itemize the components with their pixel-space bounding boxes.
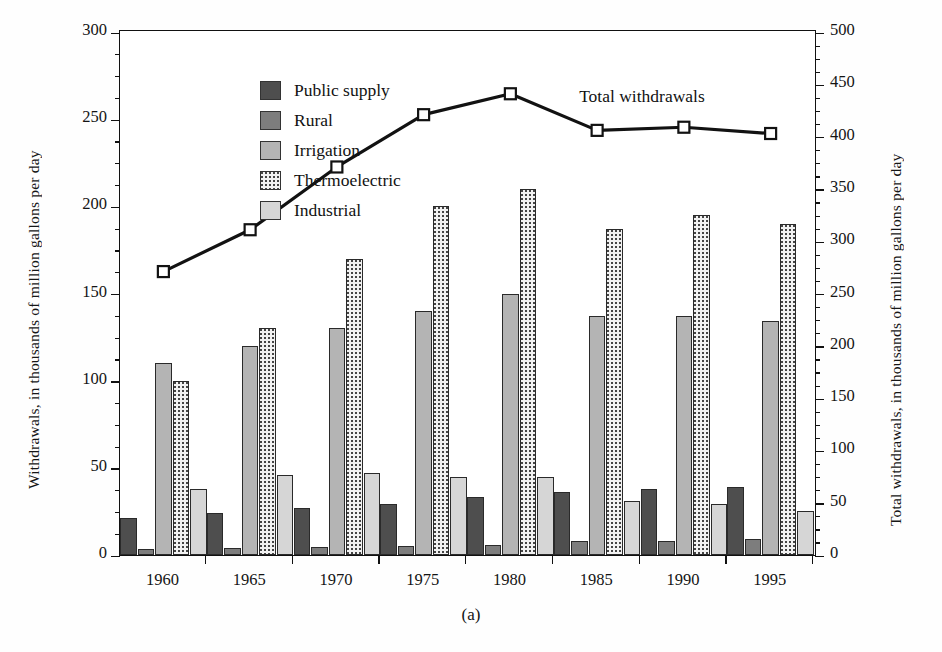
x-tick-label-1985: 1985 — [561, 570, 631, 590]
y-tick-major-right — [815, 85, 824, 86]
y-tick-minor-left — [115, 338, 120, 339]
legend-swatch-icon-public-supply — [260, 81, 281, 100]
line-series-label: Total withdrawals — [579, 86, 705, 107]
legend-item-public-supply[interactable]: Public supply — [260, 75, 401, 105]
y-tick-label-left-0: 0 — [63, 543, 107, 563]
legend-label: Irrigation — [294, 140, 360, 161]
y-tick-minor-right — [815, 320, 820, 321]
y-tick-major-right — [815, 294, 824, 295]
y-tick-label-left-250: 250 — [63, 107, 107, 127]
x-tick-label-1995: 1995 — [735, 570, 805, 590]
y-tick-minor-right — [815, 438, 820, 439]
y-tick-minor-right — [815, 386, 820, 387]
legend-item-rural[interactable]: Rural — [260, 105, 401, 135]
y-tick-major-left — [111, 207, 120, 208]
y-tick-minor-left — [115, 403, 120, 404]
figure-caption: (a) — [0, 605, 942, 625]
y-tick-major-right — [815, 137, 824, 138]
y-tick-major-left — [111, 294, 120, 295]
y-tick-label-right-250: 250 — [830, 282, 874, 302]
legend-swatch-icon-industrial — [260, 201, 281, 220]
y-tick-label-left-150: 150 — [63, 282, 107, 302]
x-tick-label-1970: 1970 — [301, 570, 371, 590]
y-tick-minor-right — [815, 72, 820, 73]
x-tick-label-1975: 1975 — [388, 570, 458, 590]
x-tick-1960 — [205, 555, 206, 564]
legend-label: Industrial — [294, 200, 361, 221]
y-tick-minor-right — [815, 516, 820, 517]
legend-swatch-icon-irrigation — [260, 141, 281, 160]
legend-swatch-icon-thermoelectric — [260, 171, 281, 190]
y-tick-minor-left — [115, 534, 120, 535]
y-tick-label-right-200: 200 — [830, 334, 874, 354]
y-tick-label-right-450: 450 — [830, 72, 874, 92]
y-tick-minor-right — [815, 307, 820, 308]
y-tick-minor-right — [815, 124, 820, 125]
y-tick-minor-left — [115, 447, 120, 448]
legend-item-thermoelectric[interactable]: Thermoelectric — [260, 165, 401, 195]
legend-item-industrial[interactable]: Industrial — [260, 195, 401, 225]
y-tick-major-right — [815, 33, 824, 34]
y-tick-major-right — [815, 346, 824, 347]
y-tick-minor-left — [115, 185, 120, 186]
y-tick-major-right — [815, 189, 824, 190]
y-tick-major-right — [815, 503, 824, 504]
plot-area: Total withdrawals Public supplyRuralIrri… — [119, 30, 816, 556]
y-tick-minor-left — [115, 512, 120, 513]
y-tick-label-right-150: 150 — [830, 386, 874, 406]
x-tick-1965 — [292, 555, 293, 564]
y-tick-major-left — [111, 468, 120, 469]
y-tick-minor-left — [115, 359, 120, 360]
y-tick-major-right — [815, 399, 824, 400]
y-tick-minor-left — [115, 425, 120, 426]
legend-swatch-icon-rural — [260, 111, 281, 130]
x-tick-1985 — [639, 555, 640, 564]
y-tick-minor-right — [815, 425, 820, 426]
legend: Public supplyRuralIrrigationThermoelectr… — [260, 75, 401, 225]
legend-item-irrigation[interactable]: Irrigation — [260, 135, 401, 165]
y-tick-label-right-350: 350 — [830, 177, 874, 197]
y-tick-major-left — [111, 556, 120, 557]
y-tick-minor-right — [815, 464, 820, 465]
y-tick-minor-right — [815, 163, 820, 164]
x-tick-1980 — [552, 555, 553, 564]
y-tick-minor-right — [815, 59, 820, 60]
y-tick-minor-left — [115, 98, 120, 99]
y-axis-right-title: Total withdrawals, in thousands of milli… — [886, 150, 926, 530]
y-tick-major-right — [815, 451, 824, 452]
y-tick-minor-right — [815, 281, 820, 282]
y-tick-label-left-50: 50 — [63, 456, 107, 476]
total-withdrawals-line — [120, 31, 815, 555]
y-tick-major-right — [815, 556, 824, 557]
y-tick-minor-right — [815, 46, 820, 47]
y-tick-minor-right — [815, 490, 820, 491]
y-tick-label-left-300: 300 — [63, 20, 107, 40]
y-tick-major-left — [111, 381, 120, 382]
y-tick-minor-left — [115, 316, 120, 317]
y-tick-minor-right — [815, 268, 820, 269]
legend-label: Thermoelectric — [294, 170, 401, 191]
y-tick-minor-right — [815, 477, 820, 478]
x-tick-label-1965: 1965 — [214, 570, 284, 590]
y-tick-label-left-200: 200 — [63, 194, 107, 214]
x-tick-label-1960: 1960 — [127, 570, 197, 590]
y-tick-minor-right — [815, 98, 820, 99]
y-tick-minor-right — [815, 255, 820, 256]
legend-label: Public supply — [294, 80, 390, 101]
y-tick-minor-right — [815, 150, 820, 151]
x-tick-label-1980: 1980 — [474, 570, 544, 590]
y-tick-label-right-50: 50 — [830, 491, 874, 511]
y-tick-label-right-100: 100 — [830, 438, 874, 458]
y-tick-minor-right — [815, 359, 820, 360]
y-tick-minor-left — [115, 141, 120, 142]
legend-label: Rural — [294, 110, 333, 131]
y-tick-minor-right — [815, 229, 820, 230]
y-tick-label-right-300: 300 — [830, 229, 874, 249]
y-tick-minor-left — [115, 490, 120, 491]
x-tick-1975 — [465, 555, 466, 564]
y-tick-minor-left — [115, 229, 120, 230]
y-tick-label-right-0: 0 — [830, 543, 874, 563]
y-tick-minor-right — [815, 216, 820, 217]
y-tick-minor-left — [115, 250, 120, 251]
y-tick-major-left — [111, 120, 120, 121]
